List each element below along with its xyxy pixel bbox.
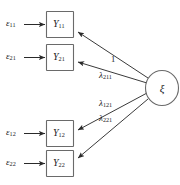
- diagram-canvas: ε11 ε21 ε12 ε22 Y11 Y21 Y12 Y22 1 λ211 λ…: [0, 0, 180, 185]
- loading-path-lambda121: [78, 93, 147, 130]
- error-label-e22: ε22: [6, 157, 16, 167]
- error-label-e12: ε12: [6, 127, 16, 137]
- loading-label-lambda221: λ221: [98, 113, 112, 123]
- loading-path-lambda221: [78, 99, 148, 158]
- sem-path-diagram: ε11 ε21 ε12 ε22 Y11 Y21 Y12 Y22 1 λ211 λ…: [0, 0, 180, 185]
- error-label-e21: ε21: [6, 51, 16, 61]
- loading-label-1: 1: [111, 54, 115, 64]
- latent-label-xi: ξ: [160, 82, 165, 95]
- error-label-e11: ε11: [6, 18, 16, 28]
- loading-path-lambda211: [78, 62, 147, 83]
- loading-label-lambda121: λ121: [98, 98, 112, 108]
